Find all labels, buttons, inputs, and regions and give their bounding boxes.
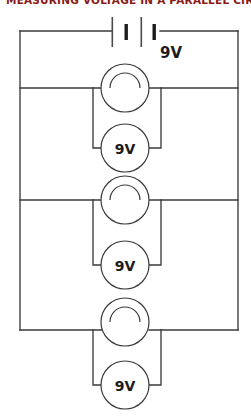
branch-3: 9V — [93, 298, 161, 409]
lamp-3 — [101, 298, 149, 346]
lamp-2 — [101, 176, 149, 224]
branch-3-voltmeter-lead-left — [93, 330, 102, 385]
battery-plate-long-1 — [112, 17, 114, 47]
voltmeter-3-reading: 9V — [115, 378, 136, 394]
branch-1-voltmeter-lead-right — [149, 88, 161, 148]
parallel-circuit-schematic: 9V 9V — [0, 0, 251, 416]
branch-2-voltmeter-lead-left — [93, 200, 102, 265]
battery-plate-short-2 — [153, 24, 156, 40]
voltmeter-1-reading: 9V — [115, 141, 136, 157]
battery-plate-long-2 — [141, 17, 143, 47]
lamp-2-envelope — [101, 176, 149, 224]
branch-1: 9V — [20, 64, 238, 172]
battery-voltage-label: 9V — [160, 44, 182, 62]
battery-plate-short-1 — [125, 24, 128, 40]
voltmeter-2: 9V — [101, 241, 149, 289]
lamp-1-envelope — [101, 64, 149, 112]
circuit-diagram-canvas: MEASURING VOLTAGE IN A PARALLEL CIRCUIT — [0, 0, 251, 416]
lamp-3-envelope — [101, 298, 149, 346]
branch-1-voltmeter-lead-left — [93, 88, 102, 148]
branch-2: 9V — [20, 176, 238, 289]
branch-3-voltmeter-lead-right — [149, 330, 161, 385]
lamp-1 — [101, 64, 149, 112]
voltmeter-2-reading: 9V — [115, 258, 136, 274]
branch-2-voltmeter-lead-right — [149, 200, 161, 265]
voltmeter-1: 9V — [101, 124, 149, 172]
battery: 9V — [112, 17, 183, 62]
voltmeter-3: 9V — [101, 361, 149, 409]
